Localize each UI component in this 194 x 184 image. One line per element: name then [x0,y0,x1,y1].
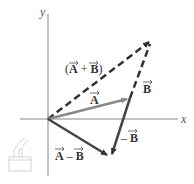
svg-text:B: B [143,82,151,96]
svg-text:A – B: A – B [55,149,84,163]
vector-minus-b [112,98,130,154]
sketch-logo-icon [9,138,31,171]
x-axis-label: x [180,112,187,126]
label-minus-b: – B [120,129,138,145]
y-axis-label: y [39,5,46,19]
svg-text:A: A [90,93,99,107]
label-a-plus-b: (A + B) [65,61,102,76]
label-b: B [143,80,152,96]
vector-diagram: x y (A + B) A B – B A – B [0,0,194,184]
label-a: A [90,91,99,107]
label-a-minus-b: A – B [55,147,84,163]
